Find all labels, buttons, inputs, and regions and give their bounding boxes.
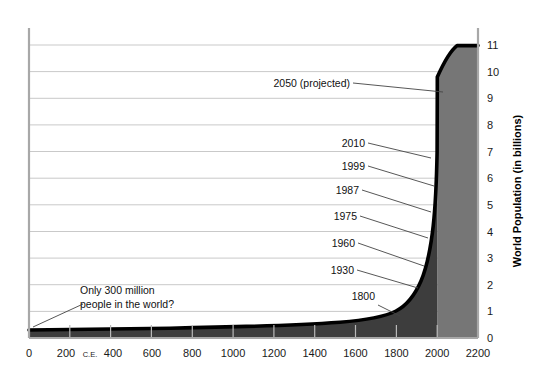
ytick-label-8: 8 — [487, 119, 493, 131]
xtick-label-200: 200 — [57, 347, 75, 359]
xtick-label-1600: 1600 — [343, 347, 367, 359]
annotation-1960-label: 1960 — [332, 237, 356, 249]
xtick-label-2000: 2000 — [425, 347, 449, 359]
annotation-1987-label: 1987 — [336, 184, 360, 196]
ytick-label-10: 10 — [487, 66, 499, 78]
xtick-label-1400: 1400 — [302, 347, 326, 359]
xtick-label-2200: 2200 — [466, 347, 490, 359]
xtick-label-400: 400 — [104, 347, 122, 359]
ytick-label-1: 1 — [487, 305, 493, 317]
xtick-label-600: 600 — [143, 347, 161, 359]
ytick-label-4: 4 — [487, 226, 493, 238]
xtick-label-1000: 1000 — [221, 347, 245, 359]
ytick-label-6: 6 — [487, 172, 493, 184]
chart-canvas: 2050 (projected) 2010 1999 1987 1975 196… — [0, 0, 535, 381]
annotation-1975-label: 1975 — [334, 210, 358, 222]
ytick-label-11: 11 — [487, 39, 498, 51]
ytick-label-0: 0 — [487, 332, 493, 344]
y-axis-title: World Population (in billions) — [511, 114, 523, 267]
ytick-label-3: 3 — [487, 252, 493, 264]
projected-area-fill — [437, 46, 478, 338]
annotation-2010-label: 2010 — [342, 137, 366, 149]
ytick-label-2: 2 — [487, 279, 493, 291]
ytick-label-5: 5 — [487, 199, 493, 211]
annotation-only-300-million-line2: people in the world? — [80, 298, 174, 310]
xtick-label-800: 800 — [183, 347, 201, 359]
population-chart-figure: 2050 (projected) 2010 1999 1987 1975 196… — [0, 0, 535, 381]
annotation-1930-label: 1930 — [331, 264, 355, 276]
ytick-label-7: 7 — [487, 146, 493, 158]
annotation-1800-label: 1800 — [352, 290, 376, 302]
xtick-label-1200: 1200 — [262, 347, 286, 359]
xaxis-ce-label: C.E. — [83, 350, 98, 359]
xtick-label-1800: 1800 — [384, 347, 408, 359]
xtick-label-0: 0 — [26, 347, 32, 359]
annotation-1999-label: 1999 — [342, 160, 366, 172]
ytick-label-9: 9 — [487, 92, 493, 104]
annotation-2050-label: 2050 (projected) — [274, 77, 350, 89]
annotation-only-300-million-line1: Only 300 million — [80, 284, 155, 296]
